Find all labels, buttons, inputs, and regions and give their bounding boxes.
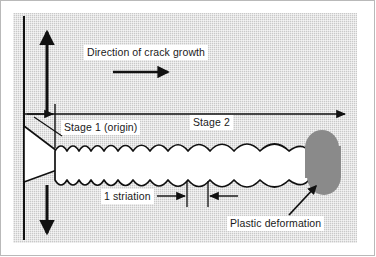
striated-crack-band — [55, 144, 316, 187]
plastic-deformation-zone — [305, 130, 341, 195]
stage-1-leader-line — [34, 117, 62, 136]
initial-notch-wedge — [24, 126, 57, 182]
plastic-deformation-label: Plastic deformation — [227, 216, 324, 231]
fatigue-crack-diagram: Direction of crack growth Stage 1 (origi… — [0, 0, 376, 257]
plastic-deformation-leader-arrow — [289, 186, 316, 215]
stage-1-origin-label: Stage 1 (origin) — [61, 120, 140, 135]
striation-label: 1 striation — [101, 189, 154, 204]
stage-2-label: Stage 2 — [190, 115, 233, 130]
direction-of-crack-growth-label: Direction of crack growth — [84, 45, 208, 60]
